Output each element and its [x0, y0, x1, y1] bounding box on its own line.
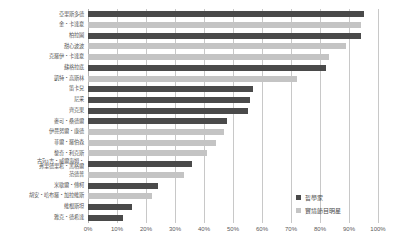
y-axis-label: 柏拉圖 — [69, 33, 84, 39]
bar-row — [88, 11, 378, 17]
y-axis-label: 笛卡兒 — [69, 86, 84, 92]
y-axis-label: 凱特・高斯林 — [54, 76, 84, 82]
y-axis-label: 胡安・哈布羅・加拉維斯 — [29, 193, 84, 199]
bar-rows — [88, 9, 378, 223]
bar-star — [88, 193, 152, 199]
bar-phil — [88, 118, 227, 124]
y-axis-label: 亞里斯多德 — [59, 12, 84, 18]
y-axis-label: 克羅伊・卡達夏 — [49, 54, 84, 60]
legend-swatch-icon — [296, 195, 301, 200]
x-axis-tick: 50% — [227, 226, 239, 232]
bar-phil — [88, 33, 361, 39]
y-axis-label: 金・卡達夏 — [59, 22, 84, 28]
bar-row — [88, 54, 378, 60]
bar-phil — [88, 108, 248, 114]
bar-row — [88, 65, 378, 71]
bar-phil — [88, 204, 132, 210]
legend-item-phil[interactable]: 哲學家 — [296, 193, 341, 202]
bar-phil — [88, 215, 123, 221]
bar-row — [88, 150, 378, 156]
bar-phil — [88, 86, 253, 92]
x-axis-tick: 100% — [370, 226, 385, 232]
bar-phil — [88, 183, 158, 189]
y-axis-label: 古ទីរេ吉・威爾海姆・ 弗里德里希・黑格爾 — [37, 159, 84, 170]
y-axis-label: 伊曼努爾・康德 — [49, 129, 84, 135]
y-axis-label: 黎奇・利克斯 — [54, 151, 84, 157]
bar-row — [88, 97, 378, 103]
x-axis-tick: 20% — [140, 226, 152, 232]
x-axis-tick: 60% — [256, 226, 268, 232]
legend-item-star[interactable]: 實境節目明星 — [296, 206, 341, 215]
x-axis-tick: 10% — [111, 226, 123, 232]
bar-row — [88, 22, 378, 28]
y-axis-label: 雅克・德希達 — [54, 215, 84, 221]
bar-row — [88, 140, 378, 146]
bar-row — [88, 129, 378, 135]
x-axis-tick: 0% — [84, 226, 93, 232]
bar-row — [88, 33, 378, 39]
bar-row — [88, 161, 378, 167]
y-axis-label: 米歇爾・傅柯 — [54, 183, 84, 189]
bar-row — [88, 118, 378, 124]
bar-phil — [88, 97, 250, 103]
bar-phil — [88, 65, 326, 71]
bar-star — [88, 140, 216, 146]
y-axis-label: 維根斯坦 — [64, 204, 84, 210]
x-axis-tick: 30% — [169, 226, 181, 232]
y-axis-label: 范德普 — [69, 172, 84, 178]
y-axis-label: 齊克果 — [69, 108, 84, 114]
bar-star — [88, 150, 207, 156]
legend-label: 哲學家 — [305, 193, 323, 202]
bar-star — [88, 129, 224, 135]
y-axis-label: 麥可・桑德爾 — [54, 119, 84, 125]
bar-row — [88, 172, 378, 178]
x-axis-tick: 80% — [314, 226, 326, 232]
bar-star — [88, 43, 346, 49]
bar-row — [88, 183, 378, 189]
bar-star — [88, 172, 184, 178]
bar-star — [88, 54, 329, 60]
bar-star — [88, 22, 361, 28]
chart-title — [0, 0, 394, 5]
y-axis-label: 菲爾・羅伯森 — [54, 140, 84, 146]
x-axis: 0%10%20%30%40%50%60%70%80%90%100% — [88, 224, 378, 238]
x-axis-tick: 90% — [343, 226, 355, 232]
bar-phil — [88, 161, 192, 167]
x-axis-tick: 70% — [285, 226, 297, 232]
gridline-100 — [378, 9, 379, 223]
bar-phil — [88, 11, 364, 17]
bar-row — [88, 86, 378, 92]
x-axis-tick: 40% — [198, 226, 210, 232]
plot-area — [88, 9, 378, 223]
bar-chart: 亞里斯多德金・卡達夏柏拉圖甜心波波克羅伊・卡達夏蘇格拉底凱特・高斯林笛卡兒尼采齊… — [0, 0, 394, 249]
bar-row — [88, 108, 378, 114]
bar-star — [88, 76, 297, 82]
legend-swatch-icon — [296, 208, 301, 213]
y-axis-label: 甜心波波 — [64, 44, 84, 50]
bar-row — [88, 76, 378, 82]
y-axis-labels: 亞里斯多德金・卡達夏柏拉圖甜心波波克羅伊・卡達夏蘇格拉底凱特・高斯林笛卡兒尼采齊… — [0, 9, 86, 223]
y-axis-label: 蘇格拉底 — [64, 65, 84, 71]
legend-label: 實境節目明星 — [305, 206, 341, 215]
bar-row — [88, 43, 378, 49]
y-axis-label: 尼采 — [74, 97, 84, 103]
chart-legend: 哲學家實境節目明星 — [296, 193, 341, 219]
